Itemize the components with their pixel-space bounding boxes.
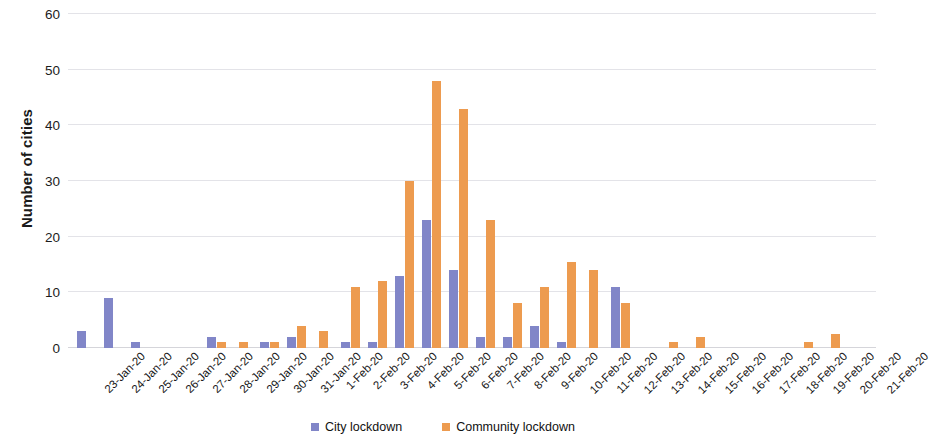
bar-community-lockdown[interactable] <box>351 287 360 348</box>
bar-group[interactable] <box>418 14 445 348</box>
bar-group[interactable] <box>391 14 418 348</box>
bar-group[interactable] <box>741 14 768 348</box>
bar-city-lockdown[interactable] <box>422 220 431 348</box>
bar-city-lockdown[interactable] <box>557 342 566 348</box>
bar-community-lockdown[interactable] <box>432 81 441 348</box>
bar-community-lockdown[interactable] <box>405 181 414 348</box>
bar-group[interactable] <box>230 14 257 348</box>
bar-group[interactable] <box>122 14 149 348</box>
bar-community-lockdown[interactable] <box>804 342 813 348</box>
legend-label: Community lockdown <box>456 420 575 434</box>
bar-community-lockdown[interactable] <box>621 303 630 348</box>
legend-item[interactable]: City lockdown <box>311 420 402 434</box>
bar-group[interactable] <box>714 14 741 348</box>
bar-community-lockdown[interactable] <box>270 342 279 348</box>
y-tick-label: 30 <box>16 174 60 189</box>
legend-label: City lockdown <box>325 420 402 434</box>
bar-group[interactable] <box>607 14 634 348</box>
bar-city-lockdown[interactable] <box>104 298 113 348</box>
bar-community-lockdown[interactable] <box>567 262 576 348</box>
bar-city-lockdown[interactable] <box>287 337 296 348</box>
bar-group[interactable] <box>283 14 310 348</box>
bar-group[interactable] <box>445 14 472 348</box>
bar-group[interactable] <box>149 14 176 348</box>
bar-city-lockdown[interactable] <box>395 276 404 348</box>
bar-community-lockdown[interactable] <box>319 331 328 348</box>
bar-community-lockdown[interactable] <box>486 220 495 348</box>
bar-community-lockdown[interactable] <box>540 287 549 348</box>
bar-city-lockdown[interactable] <box>611 287 620 348</box>
bar-group[interactable] <box>634 14 661 348</box>
bar-community-lockdown[interactable] <box>239 342 248 348</box>
bar-group[interactable] <box>661 14 688 348</box>
bar-group[interactable] <box>176 14 203 348</box>
legend-swatch-icon <box>311 423 319 431</box>
bar-group[interactable] <box>526 14 553 348</box>
bar-group[interactable] <box>849 14 876 348</box>
bar-group[interactable] <box>203 14 230 348</box>
bar-city-lockdown[interactable] <box>476 337 485 348</box>
bar-group[interactable] <box>795 14 822 348</box>
bar-group[interactable] <box>257 14 284 348</box>
bar-city-lockdown[interactable] <box>449 270 458 348</box>
bar-group[interactable] <box>68 14 95 348</box>
y-tick-label: 50 <box>16 62 60 77</box>
y-tick-label: 10 <box>16 285 60 300</box>
bar-community-lockdown[interactable] <box>696 337 705 348</box>
bar-group[interactable] <box>768 14 795 348</box>
bar-city-lockdown[interactable] <box>530 326 539 348</box>
plot-area <box>68 14 876 348</box>
bar-community-lockdown[interactable] <box>831 334 840 348</box>
bar-community-lockdown[interactable] <box>513 303 522 348</box>
bar-community-lockdown[interactable] <box>669 342 678 348</box>
bar-city-lockdown[interactable] <box>341 342 350 348</box>
bar-community-lockdown[interactable] <box>378 281 387 348</box>
bar-community-lockdown[interactable] <box>217 342 226 348</box>
bar-group[interactable] <box>580 14 607 348</box>
bar-city-lockdown[interactable] <box>503 337 512 348</box>
bar-group[interactable] <box>95 14 122 348</box>
chart-legend: City lockdownCommunity lockdown <box>0 420 886 434</box>
bar-group[interactable] <box>472 14 499 348</box>
bar-city-lockdown[interactable] <box>131 342 140 348</box>
bar-community-lockdown[interactable] <box>459 109 468 348</box>
bar-city-lockdown[interactable] <box>368 342 377 348</box>
y-tick-label: 60 <box>16 7 60 22</box>
y-tick-label: 20 <box>16 229 60 244</box>
legend-swatch-icon <box>442 423 450 431</box>
y-tick-label: 40 <box>16 118 60 133</box>
bar-community-lockdown[interactable] <box>297 326 306 348</box>
bar-group[interactable] <box>310 14 337 348</box>
bar-city-lockdown[interactable] <box>207 337 216 348</box>
bar-group[interactable] <box>337 14 364 348</box>
bar-group[interactable] <box>553 14 580 348</box>
bar-community-lockdown[interactable] <box>589 270 598 348</box>
bar-group[interactable] <box>687 14 714 348</box>
bar-group[interactable] <box>822 14 849 348</box>
bar-group[interactable] <box>364 14 391 348</box>
y-tick-label: 0 <box>16 341 60 356</box>
bar-city-lockdown[interactable] <box>77 331 86 348</box>
legend-item[interactable]: Community lockdown <box>442 420 575 434</box>
bar-group[interactable] <box>499 14 526 348</box>
bar-city-lockdown[interactable] <box>260 342 269 348</box>
x-axis-tick-labels: 23-Jan-2024-Jan-2025-Jan-2026-Jan-2027-J… <box>68 350 876 412</box>
y-axis-tick-labels: 0102030405060 <box>0 14 60 348</box>
